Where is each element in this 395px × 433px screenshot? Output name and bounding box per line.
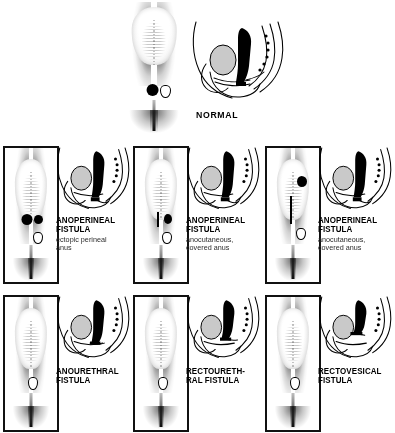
sacral-vertebral-dots <box>258 34 269 71</box>
sagittal-svg <box>317 146 395 212</box>
plate-inner <box>267 148 319 282</box>
plate-anourethral <box>3 295 59 432</box>
urethra-line <box>336 342 366 345</box>
caption-title: ANOPERINEAL FISTULA <box>186 216 257 234</box>
plate-anoperineal-anocutaneous-1 <box>133 146 189 284</box>
sacral-vertebral-dots <box>242 158 248 183</box>
buttock-right-shading <box>290 406 320 432</box>
anal-canal-black <box>236 82 246 86</box>
sagittal-panel-5 <box>185 295 263 361</box>
caption-panel-3: ANOPERINEAL FISTULA anocutaneous, covere… <box>318 216 394 253</box>
sacral-outline-inner <box>106 299 123 351</box>
bladder-shaded <box>333 315 354 339</box>
caption-title: ANOURETHRAL FISTULA <box>56 367 127 385</box>
plate-inner <box>135 297 187 430</box>
bladder-shaded <box>201 166 222 190</box>
scrotal-rugae <box>22 324 40 364</box>
unit-panel-1: ANOPERINEAL FISTULA ectopic perineal anu… <box>3 146 131 284</box>
perineal-body-outline <box>210 72 260 97</box>
caption-panel-5: RECTOURETH- RAL FISTULA <box>186 367 262 387</box>
caption-subtitle: anocutaneous, covered anus <box>186 236 258 254</box>
caption-panel-1: ANOPERINEAL FISTULA ectopic perineal anu… <box>56 216 132 253</box>
sacral-outline-inner <box>106 150 123 202</box>
scrotal-rugae <box>22 175 40 215</box>
caption-subtitle: ectopic perineal anus <box>56 236 128 254</box>
bladder-shaded <box>71 315 92 339</box>
buttock-right-shading <box>28 258 58 284</box>
sagittal-svg <box>317 295 395 361</box>
sacral-outline-inner <box>236 150 253 202</box>
plate-rectourethral <box>133 295 189 432</box>
sagittal-svg <box>190 20 288 102</box>
caption-title: ANOPERINEAL FISTULA <box>56 216 127 234</box>
caption-title: ANOPERINEAL FISTULA <box>318 216 389 234</box>
caption-title: RECTOURETH- RAL FISTULA <box>186 367 257 385</box>
sacral-outline-inner <box>236 299 253 351</box>
buttock-right-shading <box>158 258 188 284</box>
sagittal-svg <box>185 295 263 361</box>
rectum-filled-black <box>354 151 367 197</box>
rectum-filled-black <box>222 300 235 338</box>
plate-inner <box>135 148 187 282</box>
scrotal-rugae <box>152 175 170 215</box>
buttock-right-shading <box>290 258 320 284</box>
bladder-shaded <box>210 45 236 75</box>
plate-inner <box>5 297 57 430</box>
scrotal-rugae <box>152 324 170 364</box>
ectopic-anus-marker <box>21 214 32 225</box>
caption-normal-title: NORMAL <box>196 110 280 119</box>
anus-normal-marker <box>147 84 159 96</box>
rectum-filled-black <box>92 300 105 342</box>
probe-instrument <box>160 85 171 98</box>
caption-normal: NORMAL <box>196 110 286 119</box>
sagittal-svg <box>185 146 263 212</box>
plate-inner <box>267 297 319 430</box>
fistula-opening-black <box>221 197 230 201</box>
sagittal-svg <box>55 295 133 361</box>
vesical-fistula-junction-black <box>350 332 362 335</box>
black-ribbon-marker <box>164 214 172 224</box>
sagittal-panel-1 <box>55 146 133 212</box>
fistula-junction-black <box>90 342 100 345</box>
perineal-body-outline <box>333 337 373 357</box>
sagittal-normal <box>190 20 288 102</box>
sacral-vertebral-dots <box>112 307 118 332</box>
sagittal-panel-2 <box>185 146 263 212</box>
sacral-outline-inner <box>368 299 385 351</box>
scrotal-rugae <box>142 23 166 60</box>
caption-subtitle: anocutaneous, covered anus <box>318 236 390 254</box>
buttock-right-shading <box>150 110 190 134</box>
caption-panel-6: RECTOVESICAL FISTULA <box>318 367 394 387</box>
fistula-opening-black <box>91 197 100 201</box>
unit-panel-2: ANOPERINEAL FISTULA anocutaneous, covere… <box>133 146 261 284</box>
sacral-canal-line <box>249 26 267 86</box>
buttock-right-shading <box>28 406 58 432</box>
caption-panel-2: ANOPERINEAL FISTULA anocutaneous, covere… <box>186 216 262 253</box>
scrotal-rugae <box>284 324 302 364</box>
rectum-filled-black <box>236 28 251 82</box>
sacral-vertebral-dots <box>374 307 380 332</box>
sacral-vertebral-dots <box>242 307 248 332</box>
unit-panel-6: RECTOVESICAL FISTULA <box>265 295 393 431</box>
plate-inner <box>5 148 57 282</box>
midline-slit-marker <box>157 212 159 227</box>
plate-anoperineal-ectopic <box>3 146 59 284</box>
fistula-opening-black <box>353 197 362 201</box>
sagittal-panel-6 <box>317 295 395 361</box>
caption-panel-4: ANOURETHRAL FISTULA <box>56 367 132 387</box>
unit-normal: NORMAL <box>118 2 293 138</box>
caption-title: RECTOVESICAL FISTULA <box>318 367 389 385</box>
sacral-outline-inner <box>368 150 385 202</box>
perineal-body-outline <box>71 337 111 357</box>
bladder-shaded <box>333 166 354 190</box>
bladder-shaded <box>71 166 92 190</box>
plate-anoperineal-anocutaneous-2 <box>265 146 321 284</box>
sacral-vertebral-dots <box>112 158 118 183</box>
rectum-filled-black <box>92 151 105 197</box>
rectum-filled-black <box>354 300 367 333</box>
rectum-filled-black <box>222 151 235 197</box>
bladder-shaded <box>201 315 222 339</box>
plate-normal-perineum <box>118 2 190 134</box>
plate-inner <box>118 2 190 134</box>
sagittal-panel-4 <box>55 295 133 361</box>
